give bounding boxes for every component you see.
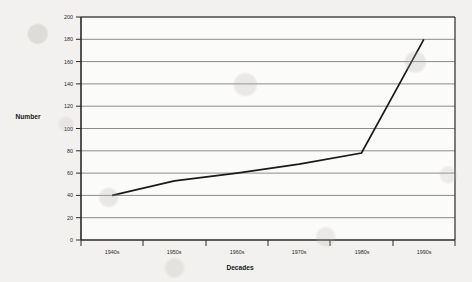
x-tick-label-1940s: 1940s [105, 249, 120, 255]
line-chart-figure: 200 180 160 140 120 100 80 60 40 20 0 19… [0, 0, 472, 282]
y-tick-label: 80 [67, 148, 73, 154]
y-tick-label: 20 [67, 215, 73, 221]
y-tick-label: 120 [64, 103, 73, 109]
x-tick-label-1980s: 1980s [355, 249, 370, 255]
y-tick-label: 60 [67, 170, 73, 176]
x-tick-label-1960s: 1960s [230, 249, 245, 255]
x-tick-label-1990s: 1990s [417, 249, 432, 255]
x-tick-label-1950s: 1950s [167, 249, 182, 255]
y-tick-label: 140 [64, 81, 73, 87]
y-tick-label: 180 [64, 36, 73, 42]
y-tick-label: 0 [70, 237, 73, 243]
y-tick-label: 160 [64, 59, 73, 65]
x-axis-title: Decades [226, 264, 253, 271]
x-tick-label-1970s: 1970s [292, 249, 307, 255]
y-tick-label: 40 [67, 192, 73, 198]
y-axis-title: Number [16, 113, 41, 120]
y-tick-label: 200 [64, 14, 73, 20]
chart-canvas: 200 180 160 140 120 100 80 60 40 20 0 19… [0, 0, 472, 282]
y-tick-label: 100 [64, 126, 73, 132]
